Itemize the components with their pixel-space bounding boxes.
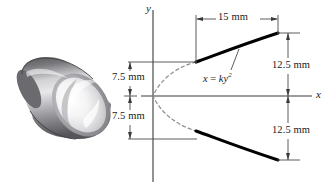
arrowhead-upper-top [128, 62, 132, 69]
arrowhead-right-upper-bottom [286, 89, 290, 96]
arrowhead-right-lower-top [286, 96, 290, 103]
dimension-label-lower-7p5mm: 7.5 mm [112, 111, 145, 122]
y-axis-label: y [146, 3, 151, 14]
arrowhead-lower-top [128, 96, 132, 103]
equation-callout-leader [231, 49, 239, 70]
dimension-label-lower-12p5mm: 12.5 mm [272, 125, 310, 136]
equation-exponent: 2 [228, 71, 232, 79]
parabola-lower-solid-branch [196, 131, 278, 160]
arrowhead-upper-bottom [128, 89, 132, 96]
equation-operator: = [208, 73, 219, 84]
parabolic-reflector-figure: y x 15 mm 7.5 mm 7.5 mm 12.5 mm 12.5 mm … [0, 0, 331, 188]
arrowhead-right-lower-bottom [286, 153, 290, 160]
arrowhead-right-upper-top [286, 33, 290, 40]
parabola-upper-solid-branch [196, 33, 278, 62]
dimension-label-upper-7p5mm: 7.5 mm [112, 72, 145, 83]
coordinate-axes [141, 10, 312, 182]
arrowhead-right [271, 17, 278, 21]
figure-svg [0, 0, 331, 188]
conical-reflector-illustration [12, 57, 122, 148]
x-axis-label: x [316, 89, 321, 100]
equation-callout-label: x = ky2 [203, 72, 232, 84]
dimension-label-15mm: 15 mm [218, 12, 248, 23]
callout-leader-line [231, 49, 239, 70]
dimension-label-upper-12p5mm: 12.5 mm [272, 60, 310, 71]
arrowhead-lower-bottom [128, 132, 132, 139]
arrowhead-left [196, 17, 203, 21]
